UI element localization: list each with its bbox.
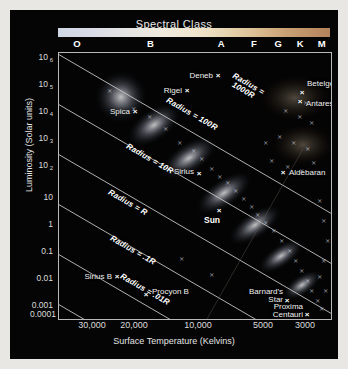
label-sun: Sun	[204, 215, 220, 225]
plot-area: ×× ×× ×× ×× ×× ×× ×× ×× ×× ×× ×× ×× ×× ×…	[58, 52, 332, 320]
label-rigel: Rigel	[164, 87, 182, 95]
label-procyon-b: Procyon B	[152, 288, 189, 296]
svg-text:×: ×	[317, 197, 322, 205]
label-spica: Spica	[110, 108, 130, 116]
marker-antares: ×	[298, 98, 303, 106]
x-tick-10000: 10,000	[184, 320, 212, 330]
spectral-class-g: G	[275, 38, 282, 49]
y-tick-0-1: 0.1	[41, 246, 53, 256]
label-antares: Antares	[306, 100, 332, 108]
hr-diagram-figure: Spectral Class O B A F G K M 106 105 104…	[0, 0, 348, 369]
y-tick-0-01: 0.01	[36, 273, 53, 283]
spectral-class-m: M	[318, 38, 326, 49]
svg-text:×: ×	[315, 297, 320, 305]
svg-text:×: ×	[191, 147, 196, 155]
svg-text:×: ×	[317, 273, 322, 281]
svg-text:×: ×	[263, 139, 268, 147]
label-proxima-centauri: Proxima Centauri	[273, 303, 303, 320]
svg-text:×: ×	[147, 113, 152, 121]
svg-text:×: ×	[209, 165, 214, 173]
svg-text:×: ×	[249, 203, 254, 211]
svg-text:×: ×	[255, 211, 260, 219]
svg-text:×: ×	[309, 119, 314, 127]
svg-text:×: ×	[311, 159, 316, 167]
svg-text:×: ×	[293, 257, 298, 265]
svg-text:×: ×	[291, 139, 296, 147]
svg-text:×: ×	[177, 139, 182, 147]
y-tick-1e5: 105	[50, 84, 53, 95]
svg-text:×: ×	[209, 271, 214, 279]
label-sirius-b: Sirius B	[84, 273, 112, 281]
svg-text:×: ×	[299, 267, 304, 275]
svg-text:×: ×	[179, 255, 184, 263]
y-tick-1e3: 103	[50, 138, 53, 149]
marker-spica: ×	[133, 108, 138, 116]
svg-text:×: ×	[217, 173, 222, 181]
svg-text:×: ×	[277, 133, 282, 141]
marker-deneb: ×	[216, 72, 221, 80]
marker-proxima-centauri: ×	[305, 311, 310, 319]
y-tick-1e4: 104	[50, 111, 53, 122]
x-tick-3000: 3000	[295, 320, 315, 330]
svg-text:×: ×	[319, 305, 324, 313]
y-tick-0-0001: 0.0001	[30, 309, 56, 319]
y-tick-1: 1	[48, 219, 53, 229]
svg-text:×: ×	[163, 125, 168, 133]
svg-text:×: ×	[321, 257, 326, 265]
spectral-class-f: F	[251, 38, 257, 49]
svg-text:×: ×	[199, 155, 204, 163]
svg-text:×: ×	[263, 219, 268, 227]
svg-text:×: ×	[321, 217, 326, 225]
y-axis-title: Luminosity (Solar units)	[24, 40, 34, 250]
y-tick-10: 10	[44, 192, 53, 202]
svg-text:×: ×	[241, 195, 246, 203]
svg-text:×: ×	[271, 227, 276, 235]
label-aldebaran: Aldebaran	[289, 169, 325, 177]
y-tick-1e2: 102	[50, 165, 53, 176]
spectral-class-a: A	[218, 38, 225, 49]
svg-text:×: ×	[225, 179, 230, 187]
svg-text:×: ×	[323, 287, 328, 295]
label-sirius: Sirius	[174, 168, 194, 176]
figure-panel: Spectral Class O B A F G K M 106 105 104…	[10, 10, 338, 359]
svg-text:×: ×	[283, 107, 288, 115]
svg-text:×: ×	[305, 145, 310, 153]
marker-sirius: ×	[197, 170, 202, 178]
marker-sun: ×	[217, 207, 222, 215]
x-axis-title: Surface Temperature (Kelvins)	[10, 336, 338, 346]
svg-text:×: ×	[305, 277, 310, 285]
x-tick-5000: 5000	[253, 320, 273, 330]
spectral-class-o: O	[73, 38, 80, 49]
x-axis-tick-labels: 30,000 20,000 10,000 5000 3000	[58, 320, 330, 334]
label-betelgeuse: Betelgeuse	[307, 80, 332, 88]
spectral-class-labels: O B A F G K M	[58, 38, 330, 52]
svg-text:×: ×	[269, 157, 274, 165]
marker-procyon-b: ×	[144, 291, 149, 299]
giant-branch-haze	[261, 76, 331, 165]
svg-text:×: ×	[325, 237, 330, 245]
svg-text:×: ×	[279, 237, 284, 245]
y-axis-tick-labels: 106 105 104 103 102 10 1 0.1 0.01 0.001 …	[10, 52, 58, 318]
svg-text:×: ×	[297, 113, 302, 121]
svg-text:×: ×	[233, 187, 238, 195]
marker-sirius-b: ×	[115, 273, 120, 281]
spectral-class-b: B	[147, 38, 154, 49]
marker-betelgeuse: ×	[300, 89, 305, 97]
svg-text:×: ×	[287, 247, 292, 255]
y-tick-1e6: 106	[50, 57, 53, 68]
svg-text:×: ×	[309, 287, 314, 295]
label-deneb: Deneb	[189, 72, 213, 80]
marker-rigel: ×	[185, 87, 190, 95]
svg-text:×: ×	[107, 87, 112, 95]
spectral-class-colorbar	[58, 28, 330, 37]
spectral-class-k: K	[297, 38, 304, 49]
marker-aldebaran: ×	[281, 169, 286, 177]
x-tick-30000: 30,000	[78, 320, 106, 330]
x-tick-20000: 20,000	[120, 320, 148, 330]
